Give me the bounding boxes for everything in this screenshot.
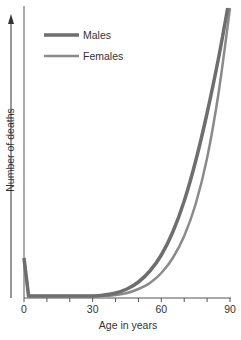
x-tick-label: 30 (87, 303, 99, 315)
y-axis-label: Number of deaths (4, 108, 16, 191)
x-tick-label: 60 (155, 303, 167, 315)
x-axis-label: Age in years (99, 319, 157, 331)
x-axis-ticks: 0306090 (21, 298, 236, 315)
legend-females: Females (83, 50, 123, 62)
series-line-males (24, 8, 228, 296)
x-tick-label: 90 (224, 303, 236, 315)
legend: Males Females (44, 29, 123, 62)
chart: Number of deaths 0306090 Age in years Ma… (0, 0, 241, 340)
chart-svg: Number of deaths 0306090 Age in years Ma… (0, 0, 241, 340)
legend-males: Males (83, 29, 111, 41)
x-tick-label: 0 (21, 303, 27, 315)
series-lines (24, 8, 230, 296)
